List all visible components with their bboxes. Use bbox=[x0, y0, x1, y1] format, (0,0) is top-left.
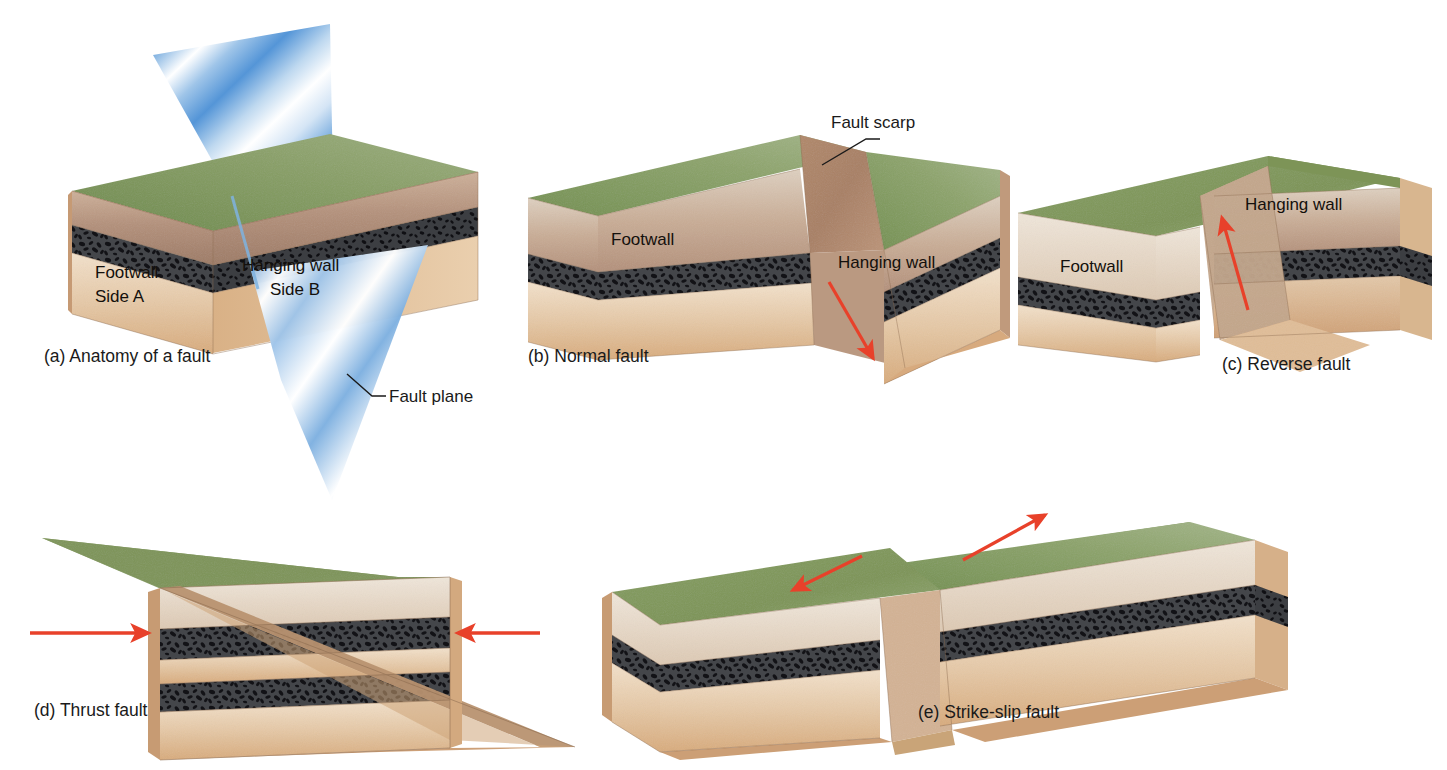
fault-types-figure: Footwall Side A Hanging wall Side B Faul… bbox=[0, 0, 1447, 770]
panel-a-footwall-label: Footwall bbox=[95, 263, 158, 282]
panel-c-hanging-wall-label: Hanging wall bbox=[1245, 195, 1342, 214]
panel-c-caption: (c) Reverse fault bbox=[1222, 354, 1351, 374]
panel-d-caption: (d) Thrust fault bbox=[34, 700, 148, 720]
near-block-left-end-e bbox=[602, 592, 612, 722]
left-end-face-d bbox=[148, 588, 160, 760]
panel-a-side-b-label: Side B bbox=[270, 280, 320, 299]
panel-e-caption: (e) Strike-slip fault bbox=[918, 702, 1059, 722]
panel-b-footwall-label: Footwall bbox=[611, 230, 674, 249]
left-end-cap-a bbox=[68, 191, 72, 314]
footwall-front-strata-c bbox=[1018, 213, 1156, 362]
hangingwall-right-face-b bbox=[1000, 170, 1010, 338]
panel-b-fault-scarp-label: Fault scarp bbox=[831, 113, 915, 132]
panel-b-caption: (b) Normal fault bbox=[528, 346, 649, 366]
panel-a-caption: (a) Anatomy of a fault bbox=[44, 346, 210, 366]
panel-a-side-a-label: Side A bbox=[95, 287, 145, 306]
panel-a-hanging-wall-label: Hanging wall bbox=[242, 256, 339, 275]
right-end-face-d bbox=[450, 577, 462, 748]
panel-b-hanging-wall-label: Hanging wall bbox=[838, 253, 935, 272]
panel-c-footwall-label: Footwall bbox=[1060, 257, 1123, 276]
panel-a-fault-plane-label: Fault plane bbox=[389, 387, 473, 406]
footwall-front-face-c bbox=[1156, 227, 1200, 362]
footwall-front-strata-b bbox=[528, 198, 598, 360]
